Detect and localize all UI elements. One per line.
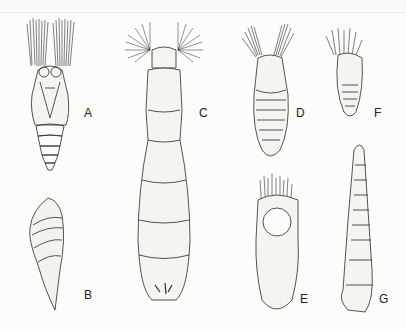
label-b: B (84, 288, 92, 302)
figure-plate: A B C D E F G (0, 0, 406, 329)
specimen-b (30, 198, 64, 310)
label-e: E (300, 292, 308, 306)
label-f: F (374, 106, 381, 120)
specimen-g (341, 145, 373, 312)
specimen-e (256, 174, 299, 309)
label-g: G (379, 292, 388, 306)
specimen-d (242, 24, 294, 156)
label-d: D (296, 106, 305, 120)
label-a: A (84, 106, 92, 120)
specimen-c (125, 22, 203, 300)
label-c: C (199, 106, 208, 120)
illustrations (0, 0, 406, 329)
specimen-f (326, 28, 362, 116)
specimen-a (27, 18, 74, 170)
